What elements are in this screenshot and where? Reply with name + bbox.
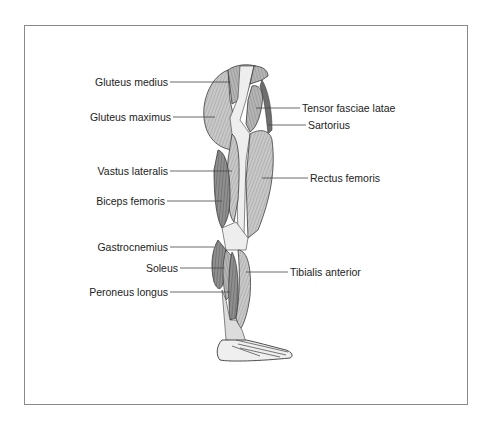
- label-gastrocnemius: Gastrocnemius: [60, 241, 168, 253]
- rectus-femoris-muscle: [246, 131, 273, 238]
- label-tibialis-anterior: Tibialis anterior: [290, 266, 361, 278]
- label-rectus-femoris: Rectus femoris: [310, 172, 380, 184]
- leg-muscle-illustration: [0, 0, 494, 427]
- label-peroneus-longus: Peroneus longus: [60, 286, 168, 298]
- label-sartorius: Sartorius: [308, 119, 350, 131]
- label-biceps-femoris: Biceps femoris: [60, 195, 165, 207]
- label-vastus-lateralis: Vastus lateralis: [60, 165, 168, 177]
- label-gluteus-medius: Gluteus medius: [60, 76, 168, 88]
- label-tensor-fasciae-latae: Tensor fasciae latae: [302, 102, 395, 114]
- tensor-fasciae-latae-muscle: [246, 86, 263, 132]
- peroneus-longus-muscle: [229, 252, 238, 320]
- label-gluteus-maximus: Gluteus maximus: [60, 111, 171, 123]
- label-soleus: Soleus: [60, 262, 178, 274]
